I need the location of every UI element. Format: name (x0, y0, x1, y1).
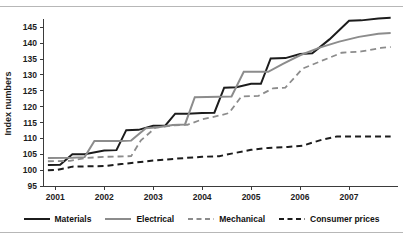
series-line-mechanical (48, 47, 391, 161)
x-tick-label: 2006 (291, 192, 310, 202)
y-tick-label: 145 (23, 22, 37, 32)
x-tick-label: 2003 (144, 192, 163, 202)
x-tick-label: 2007 (340, 192, 359, 202)
x-tick-label: 2005 (242, 192, 261, 202)
axis-lines (43, 19, 398, 186)
legend-swatch-dashed-line-icon (279, 215, 305, 223)
plot-area: 95100105110115120125130135140145 2001200… (0, 8, 403, 208)
legend-swatch-solid-line-icon (105, 215, 131, 223)
y-tick-label: 135 (23, 54, 37, 64)
y-tick-label: 95 (28, 181, 38, 191)
top-divider-rule (0, 6, 403, 7)
legend-item-electrical[interactable]: Electrical (105, 214, 174, 224)
legend-label: Mechanical (219, 214, 265, 224)
legend-label: Consumer prices (310, 214, 379, 224)
y-tick-label: 110 (23, 133, 37, 143)
data-series-group (48, 18, 391, 170)
y-axis-label: Index numbers (3, 71, 13, 135)
legend-label: Materials (55, 214, 92, 224)
y-tick-label: 130 (23, 70, 37, 80)
series-line-materials (48, 18, 391, 165)
y-tick-label: 140 (23, 38, 37, 48)
y-tick-label: 105 (23, 149, 37, 159)
line-chart-svg: 95100105110115120125130135140145 2001200… (0, 8, 403, 208)
y-tick-label: 125 (23, 86, 37, 96)
x-tick-label: 2001 (46, 192, 65, 202)
series-line-electrical (48, 33, 391, 158)
y-axis-title: Index numbers (3, 71, 13, 135)
legend-item-materials[interactable]: Materials (24, 214, 92, 224)
legend-label: Electrical (136, 214, 174, 224)
chart-figure: 95100105110115120125130135140145 2001200… (0, 0, 403, 240)
y-tick-label: 120 (23, 102, 37, 112)
y-tick-label: 100 (23, 165, 37, 175)
legend-swatch-dashed-line-icon (188, 215, 214, 223)
chart-legend: MaterialsElectricalMechanicalConsumer pr… (0, 210, 403, 228)
x-tick-label: 2002 (95, 192, 114, 202)
legend-item-consumer-prices[interactable]: Consumer prices (279, 214, 379, 224)
legend-item-mechanical[interactable]: Mechanical (188, 214, 265, 224)
x-axis-ticks: 2001200220032004200520062007 (46, 186, 359, 202)
bottom-divider-rule (0, 232, 403, 233)
x-tick-label: 2004 (193, 192, 212, 202)
y-axis-ticks: 95100105110115120125130135140145 (23, 22, 43, 191)
legend-swatch-solid-line-icon (24, 215, 50, 223)
y-tick-label: 115 (23, 118, 37, 128)
